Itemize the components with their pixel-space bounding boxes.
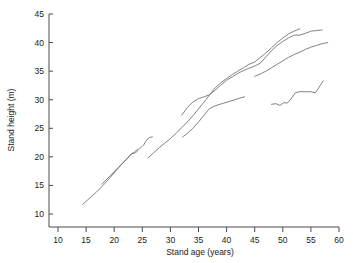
x-tick-label-30: 30: [166, 235, 176, 245]
series-line-stand-1: [83, 149, 138, 204]
x-axis-title: Stand age (years): [166, 247, 234, 257]
chart-container: 1015202530354045 1015202530354045505560 …: [0, 0, 353, 263]
y-tick-label-35: 35: [35, 66, 45, 76]
y-tick-label-30: 30: [35, 95, 45, 105]
x-tick-label-60: 60: [334, 235, 344, 245]
series-line-stand-7: [255, 43, 328, 77]
x-tick-label-20: 20: [109, 235, 119, 245]
x-tick-label-40: 40: [222, 235, 232, 245]
stand-height-vs-age-line-chart: 1015202530354045 1015202530354045505560 …: [0, 0, 353, 263]
y-tick-label-40: 40: [35, 38, 45, 48]
x-tick-label-35: 35: [194, 235, 204, 245]
series-line-stand-8: [272, 81, 324, 106]
y-tick-label-20: 20: [35, 152, 45, 162]
x-tick-label-10: 10: [53, 235, 63, 245]
series-line-stand-3: [143, 137, 152, 146]
y-axis-title: Stand height (m): [6, 88, 16, 151]
x-tick-label-45: 45: [250, 235, 260, 245]
series-line-stand-2: [102, 146, 142, 184]
x-tick-label-50: 50: [278, 235, 288, 245]
y-tick-label-25: 25: [35, 123, 45, 133]
y-tick-label-10: 10: [35, 209, 45, 219]
y-axis: 1015202530354045: [35, 9, 53, 227]
series-line-stand-4: [148, 29, 300, 158]
y-axis-ticks: [49, 14, 53, 214]
y-tick-label-45: 45: [35, 9, 45, 19]
x-axis-tick-labels: 1015202530354045505560: [53, 235, 344, 245]
y-tick-label-15: 15: [35, 180, 45, 190]
x-axis-ticks: [58, 227, 339, 232]
x-tick-label-55: 55: [306, 235, 316, 245]
series-line-stand-5: [182, 30, 323, 115]
x-axis: 1015202530354045505560: [49, 227, 344, 245]
data-series-group: [83, 29, 328, 204]
y-axis-tick-labels: 1015202530354045: [35, 9, 45, 219]
x-tick-label-15: 15: [81, 235, 91, 245]
x-tick-label-25: 25: [138, 235, 148, 245]
